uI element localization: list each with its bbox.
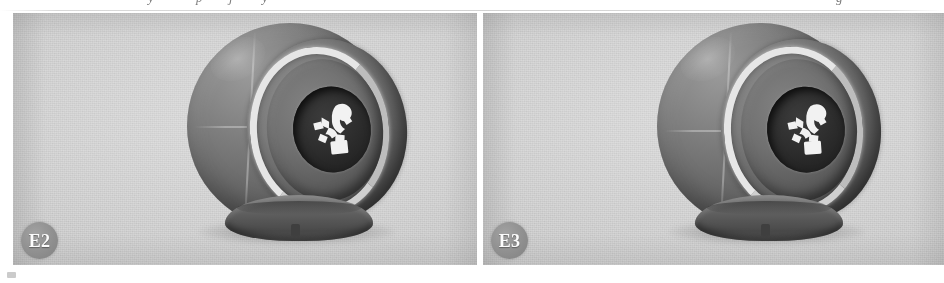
figure-root: y p j y · · g ·: [0, 0, 944, 283]
panel-label-text: E3: [499, 232, 521, 250]
caption-hairline: [0, 10, 944, 11]
panel-label-text: E2: [29, 232, 51, 250]
stray-ink-mark: [7, 272, 16, 278]
caption-fragment: ·: [318, 0, 321, 3]
caption-fragment: y: [262, 0, 268, 4]
figure-panel-e3: E3: [483, 13, 944, 265]
figure-panel-e2: E2: [13, 13, 477, 265]
caption-fragment: j: [229, 0, 233, 4]
photo-edge-shading: [483, 13, 944, 265]
caption-fragment: g: [836, 0, 843, 4]
panel-label-badge-e3: E3: [491, 222, 528, 259]
caption-fragment: y: [148, 0, 154, 4]
cropped-caption-strip: y p j y · · g ·: [0, 0, 944, 12]
caption-fragment: p: [196, 0, 203, 4]
caption-fragment: ·: [758, 0, 761, 3]
photo-edge-shading: [13, 13, 477, 265]
panel-label-badge-e2: E2: [21, 222, 58, 259]
caption-fragment: ·: [905, 0, 908, 3]
